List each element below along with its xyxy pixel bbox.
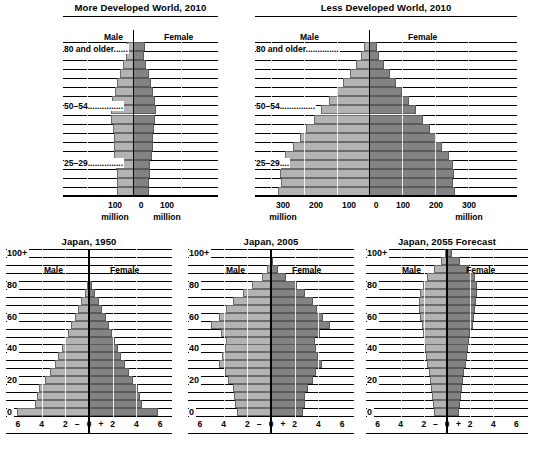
bar-female: [89, 368, 129, 376]
bar-male: [434, 265, 447, 273]
vertical-guide-line: [247, 249, 248, 434]
bar-male: [434, 408, 447, 416]
y-axis-label: 20: [367, 375, 379, 385]
bar-female: [271, 281, 297, 289]
bar-female: [370, 87, 402, 96]
vertical-guide-line: [401, 249, 402, 434]
grid-line: [63, 196, 218, 197]
bar-female: [370, 78, 396, 87]
xtick-left-100: 100: [104, 200, 126, 210]
bar-male: [75, 313, 89, 321]
bar-female: [447, 297, 476, 305]
bar-female: [134, 60, 147, 69]
bar-female: [134, 87, 154, 96]
bar-female: [89, 337, 115, 345]
bar-female: [271, 337, 315, 345]
x-axis-tick-label: 4: [393, 419, 409, 429]
xtick-left-200: 200: [305, 200, 327, 210]
bar-male: [115, 87, 134, 96]
bar-male: [219, 313, 271, 321]
bar-male: [427, 360, 447, 368]
bar-male: [306, 124, 369, 133]
bar-female: [271, 273, 286, 281]
title-rule: [63, 16, 218, 17]
vertical-guide-line: [468, 30, 469, 196]
bar-female: [447, 249, 452, 257]
bar-female: [271, 297, 313, 305]
bar-female: [134, 178, 150, 187]
bar-female: [447, 352, 467, 360]
vertical-guide-line: [304, 30, 305, 196]
vertical-guide-line: [402, 30, 403, 196]
bar-female: [271, 384, 308, 392]
bar-male: [430, 376, 447, 384]
x-axis-tick-label: 6: [152, 419, 168, 429]
bar-female: [370, 69, 390, 78]
bar-female: [370, 169, 454, 178]
bar-female: [447, 360, 466, 368]
bar-female: [134, 124, 154, 133]
bar-female: [89, 289, 95, 297]
xtick-center-0: 0: [134, 200, 148, 210]
bar-female: [134, 169, 150, 178]
y-axis-label: 100+: [367, 248, 389, 258]
bar-male: [211, 321, 272, 329]
bar-female: [271, 313, 323, 321]
bar-female: [370, 124, 430, 133]
bar-female: [447, 408, 459, 416]
bar-male: [37, 392, 89, 400]
chart-title: Less Developed World, 2010: [255, 2, 517, 13]
bar-male: [429, 368, 448, 376]
vertical-guide-line: [181, 30, 182, 196]
vertical-guide-line: [136, 249, 137, 434]
title-rule: [255, 16, 517, 17]
bar-female: [447, 368, 464, 376]
chart-japan-1950: Japan, 1950: [6, 236, 172, 247]
bar-male: [45, 376, 89, 384]
vertical-guide-line: [435, 30, 436, 196]
y-axis-label: 0: [367, 407, 374, 417]
bar-male: [433, 400, 447, 408]
bar-male: [432, 392, 447, 400]
xunit-right: million: [450, 212, 488, 222]
bar-male: [424, 337, 447, 345]
legend-female: Female: [164, 32, 193, 42]
bar-male: [39, 384, 89, 392]
vertical-guide-line: [337, 30, 338, 196]
bar-male: [117, 178, 134, 187]
center-axis: [270, 249, 271, 434]
bar-male: [321, 105, 369, 114]
bar-female: [271, 360, 322, 368]
bar-female: [134, 96, 156, 105]
bar-female: [370, 105, 417, 114]
bar-male: [234, 392, 271, 400]
bar-male: [114, 142, 134, 151]
bar-male: [431, 384, 447, 392]
y-axis-label: 100+: [189, 248, 211, 258]
bar-female: [134, 133, 153, 142]
bar-male: [252, 281, 271, 289]
bar-male: [343, 78, 369, 87]
vertical-guide-line: [493, 249, 494, 434]
xunit-left: million: [96, 212, 134, 222]
chart-title: More Developed World, 2010: [63, 2, 218, 13]
legend-female: Female: [466, 265, 495, 275]
age-label-80-and-older: 80 and older......: [64, 44, 129, 54]
x-axis-tick-label: 4: [485, 419, 501, 429]
legend-male: Male: [44, 265, 63, 275]
bar-male: [314, 115, 370, 124]
bar-male: [221, 329, 271, 337]
bar-female: [271, 265, 278, 273]
bar-female: [134, 42, 146, 51]
legend-female: Female: [408, 32, 437, 42]
bar-female: [447, 321, 473, 329]
bar-female: [134, 142, 153, 151]
bar-male: [35, 400, 90, 408]
vertical-guide-line: [113, 249, 114, 434]
axis-line-bottom: [366, 433, 528, 434]
bar-female: [89, 297, 99, 305]
bar-male: [329, 96, 370, 105]
bar-male: [117, 169, 134, 178]
xtick-right-100: 100: [392, 200, 414, 210]
x-axis-tick-label: 4: [216, 419, 232, 429]
